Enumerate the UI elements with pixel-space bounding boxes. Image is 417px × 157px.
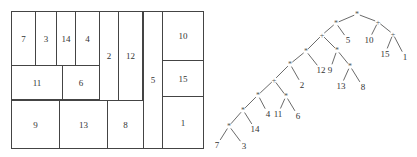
tree-edge	[276, 66, 288, 78]
tree-operator-node: *	[227, 122, 231, 131]
tree-leaf-node-15: 15	[381, 49, 391, 59]
floorplan-cell-10: 10	[162, 11, 204, 61]
tree-operator-node: *	[335, 46, 339, 55]
tree-operator-node: *	[241, 106, 245, 115]
floorplan-cell-9: 9	[11, 100, 60, 149]
tree-leaf-node-6: 6	[296, 111, 301, 121]
tree-leaf-node-14: 14	[251, 124, 261, 134]
floorplan-cell-14: 14	[56, 11, 76, 66]
tree-operator-node: +	[391, 30, 396, 39]
tree-edge	[245, 97, 256, 108]
floorplan-cell-12: 12	[118, 11, 143, 101]
tree-leaf-node-9: 9	[328, 65, 333, 75]
tree-operator-node: *	[304, 47, 308, 56]
floorplan-cell-8: 8	[107, 100, 144, 149]
floorplan-cell-15: 15	[162, 60, 204, 97]
tree-edge	[245, 113, 252, 124]
tree-edge	[339, 52, 348, 63]
tree-leaf-node-1: 1	[403, 52, 408, 62]
tree-edge	[308, 37, 320, 49]
tree-edge	[259, 98, 265, 109]
tree-leaf-node-8: 8	[361, 82, 366, 92]
floorplan-cell-2: 2	[99, 11, 119, 101]
floorplan-cell-13: 13	[59, 100, 108, 149]
tree-operator-node: *	[284, 92, 288, 101]
floorplan-diagram: 731441162129138510151	[11, 11, 203, 148]
tree-leaf-node-10: 10	[365, 35, 375, 45]
tree-leaf-node-11: 11	[274, 109, 283, 119]
tree-leaf-node-3: 3	[242, 141, 247, 151]
tree-edge	[380, 24, 390, 32]
tree-leaf-node-2: 2	[300, 80, 305, 90]
tree-leaf-node-13: 13	[337, 81, 347, 91]
tree-operator-node: *	[355, 10, 359, 19]
floorplan-cell-6: 6	[62, 65, 100, 100]
tree-edge	[288, 99, 295, 111]
tree-edge	[292, 53, 303, 62]
tree-operator-node: *	[288, 60, 292, 69]
tree-operator-node: +	[272, 76, 277, 85]
tree-operator-node: *	[256, 91, 260, 100]
tree-leaf-node-7: 7	[215, 140, 220, 150]
floorplan-cell-7: 7	[11, 11, 36, 66]
tree-edge	[231, 112, 241, 123]
tree-edge	[352, 69, 360, 82]
floorplan-cell-4: 4	[75, 11, 100, 66]
tree-operator-node: *	[348, 62, 352, 71]
floorplan-cell-3: 3	[35, 11, 57, 66]
floorplan-cell-5: 5	[143, 11, 163, 149]
tree-edge	[360, 15, 375, 21]
slicing-tree-diagram: **++510+**151*129*+2138***4116*1473	[205, 0, 417, 157]
tree-operator-node: *	[334, 19, 338, 28]
tree-edge	[260, 82, 272, 93]
tree-edge	[324, 37, 335, 48]
tree-leaf-node-4: 4	[266, 109, 271, 119]
tree-edge	[394, 37, 402, 52]
tree-edge	[291, 67, 299, 80]
tree-leaf-node-5: 5	[346, 35, 351, 45]
tree-operator-node: +	[320, 31, 325, 40]
tree-edge	[276, 82, 284, 93]
tree-edge	[339, 15, 354, 22]
tree-edge	[324, 25, 333, 33]
tree-operator-node: +	[376, 18, 381, 27]
tree-edge	[338, 25, 345, 35]
floorplan-cell-11: 11	[11, 65, 63, 100]
floorplan-cell-1: 1	[162, 96, 204, 149]
tree-edge	[231, 128, 241, 141]
tree-leaf-node-12: 12	[317, 65, 326, 75]
tree-edge	[308, 53, 317, 65]
